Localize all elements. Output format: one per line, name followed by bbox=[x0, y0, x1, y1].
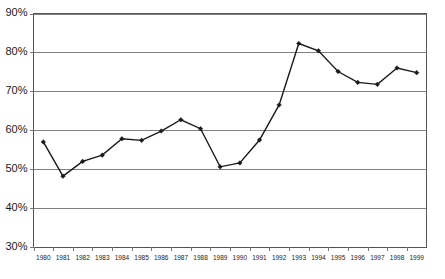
x-tick-label: 1988 bbox=[193, 254, 208, 261]
x-tick-label: 1986 bbox=[154, 254, 169, 261]
y-tick-label: 30% bbox=[5, 240, 27, 252]
y-tick-label: 50% bbox=[5, 162, 27, 174]
chart-page: 90%80%70%60%50%40%30% 198019811982198319… bbox=[0, 0, 445, 279]
x-tick-label: 1981 bbox=[56, 254, 71, 261]
x-tick-label: 1998 bbox=[390, 254, 405, 261]
x-tick-label: 1996 bbox=[350, 254, 365, 261]
x-tick-label: 1992 bbox=[272, 254, 287, 261]
x-tick-label: 1989 bbox=[213, 254, 228, 261]
x-tick-label: 1995 bbox=[331, 254, 346, 261]
y-tick-label: 60% bbox=[5, 123, 27, 135]
x-tick-label: 1997 bbox=[370, 254, 385, 261]
x-tick-label: 1980 bbox=[36, 254, 51, 261]
x-tick-label: 1984 bbox=[115, 254, 130, 261]
x-tick-label: 1994 bbox=[311, 254, 326, 261]
x-tick-label: 1982 bbox=[75, 254, 90, 261]
y-tick-label: 90% bbox=[5, 6, 27, 18]
line-chart: 90%80%70%60%50%40%30% 198019811982198319… bbox=[0, 0, 445, 279]
y-tick-label: 80% bbox=[5, 45, 27, 57]
x-tick-label: 1990 bbox=[233, 254, 248, 261]
x-tick-label: 1985 bbox=[134, 254, 149, 261]
chart-background bbox=[0, 0, 445, 279]
x-tick-label: 1991 bbox=[252, 254, 267, 261]
y-tick-label: 40% bbox=[5, 201, 27, 213]
x-tick-label: 1983 bbox=[95, 254, 110, 261]
x-tick-label: 1999 bbox=[409, 254, 424, 261]
y-tick-label: 70% bbox=[5, 84, 27, 96]
x-tick-label: 1987 bbox=[174, 254, 189, 261]
x-tick-label: 1993 bbox=[292, 254, 307, 261]
